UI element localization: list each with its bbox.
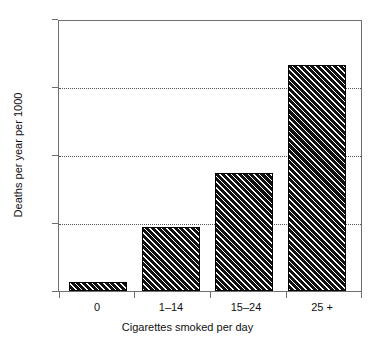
bar-category-0 <box>69 282 127 292</box>
x-tick-label: 1–14 <box>159 302 183 313</box>
bar-category-15-24 <box>215 173 273 291</box>
x-tick-mark <box>286 292 287 298</box>
bar-category-1-14 <box>142 227 200 291</box>
plot-area <box>58 20 362 292</box>
x-tick-label: 25 + <box>311 302 333 313</box>
y-axis-title: Deaths per year per 1000 <box>12 55 24 255</box>
x-tick-label: 15–24 <box>231 302 262 313</box>
x-tick-mark <box>361 292 362 298</box>
x-tick-label: 0 <box>94 302 100 313</box>
bar-category-25-plus <box>288 65 346 291</box>
x-tick-mark <box>59 292 60 298</box>
x-tick-mark <box>210 292 211 298</box>
chart-figure: 0 0.5 1 1.5 2 0 1–14 15–24 25 + Cigarett… <box>0 0 375 342</box>
x-axis-title: Cigarettes smoked per day <box>0 321 375 333</box>
x-tick-mark <box>134 292 135 298</box>
